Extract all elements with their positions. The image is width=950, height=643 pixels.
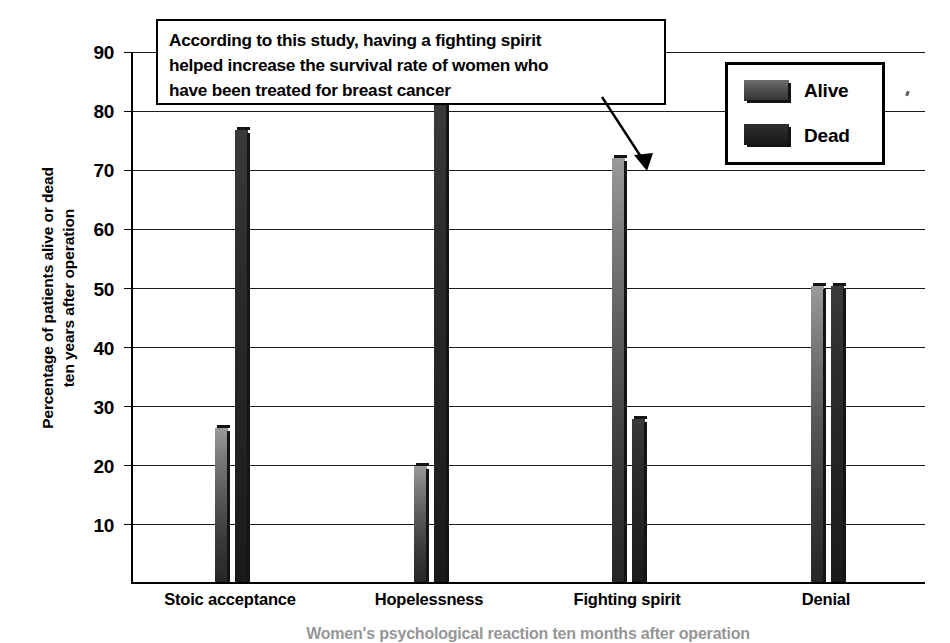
bar-cap <box>416 463 429 466</box>
bar-denial-alive[interactable] <box>811 286 826 582</box>
y-tick-label: 50 <box>68 280 114 299</box>
bar-shadow <box>644 422 647 582</box>
y-tick-mark <box>124 524 133 525</box>
y-tick-label: 70 <box>68 161 114 180</box>
callout-line-2: helped increase the survival rate of wom… <box>169 53 655 78</box>
y-tick-label: 80 <box>68 102 114 121</box>
y-tick-mark <box>124 347 133 348</box>
bar-stoic-acceptance-alive[interactable] <box>215 428 230 582</box>
bar-shadow <box>426 469 429 582</box>
y-tick-mark <box>124 288 133 289</box>
chart-legend: Alive Dead <box>725 62 885 165</box>
bar-stoic-acceptance-dead[interactable] <box>235 130 250 582</box>
y-tick-label: 20 <box>68 457 114 476</box>
bar-shadow <box>624 161 627 582</box>
bar-denial-dead[interactable] <box>831 286 846 582</box>
legend-label-alive: Alive <box>804 80 848 102</box>
y-tick-label: 60 <box>68 220 114 239</box>
legend-item-dead[interactable]: Dead <box>728 114 882 158</box>
y-axis-title-line-1: Percentage of patients alive or dead <box>37 167 58 429</box>
y-tick-label: 40 <box>68 339 114 358</box>
x-tick-label-fighting-spirit: Fighting spirit <box>574 590 681 609</box>
y-tick-label: 10 <box>68 516 114 535</box>
y-tick-mark <box>124 406 133 407</box>
bar-cap <box>813 283 826 286</box>
legend-label-dead: Dead <box>804 125 850 147</box>
bar-fighting-spirit-dead[interactable] <box>632 419 647 582</box>
bar-hopelessness-alive[interactable] <box>414 466 429 582</box>
bar-cap <box>833 283 846 286</box>
bar-shadow <box>247 133 250 582</box>
bar-cap <box>634 416 647 419</box>
callout-line-3: have been treated for breast cancer <box>169 78 655 103</box>
y-tick-mark <box>124 465 133 466</box>
x-axis-title: Women's psychological reaction ten month… <box>131 625 925 643</box>
bar-cap <box>614 155 627 158</box>
bar-hopelessness-dead[interactable] <box>434 100 449 582</box>
legend-swatch-dead-icon <box>744 124 791 147</box>
x-tick-label-denial: Denial <box>802 590 850 609</box>
y-tick-mark <box>124 170 133 171</box>
bar-cap <box>237 127 250 130</box>
bar-cap <box>217 425 230 428</box>
bar-shadow <box>227 431 230 582</box>
bar-shadow <box>843 289 846 582</box>
legend-item-alive[interactable]: Alive <box>728 69 882 113</box>
y-tick-mark <box>124 52 133 53</box>
y-axis-tick-labels: 90 80 70 60 50 40 30 20 10 <box>68 0 114 641</box>
y-tick-label: 30 <box>68 398 114 417</box>
study-callout-box: According to this study, having a fighti… <box>156 19 666 105</box>
bar-shadow <box>823 289 826 582</box>
bar-fighting-spirit-alive[interactable] <box>612 158 627 582</box>
y-tick-mark <box>124 229 133 230</box>
y-tick-label: 90 <box>68 43 114 62</box>
callout-line-1: According to this study, having a fighti… <box>169 28 655 53</box>
legend-swatch-alive-icon <box>744 80 791 103</box>
bar-shadow <box>446 103 449 582</box>
x-tick-label-hopelessness: Hopelessness <box>375 590 484 609</box>
x-tick-label-stoic-acceptance: Stoic acceptance <box>164 590 296 609</box>
y-tick-mark <box>124 111 133 112</box>
x-axis-tick-labels: Stoic acceptance Hopelessness Fighting s… <box>131 590 925 616</box>
